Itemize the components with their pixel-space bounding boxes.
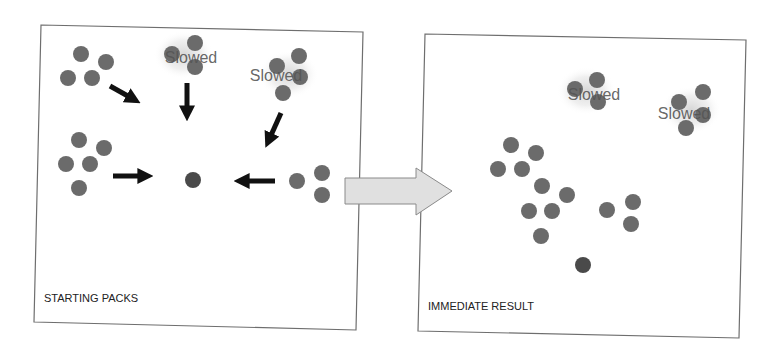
- target-circle: [185, 172, 201, 188]
- unit-circle: [84, 70, 100, 86]
- unit-circle: [60, 70, 76, 86]
- unit-circle: [599, 202, 615, 218]
- unit-circle: [314, 165, 330, 181]
- unit-circle: [623, 216, 639, 232]
- unit-circle: [514, 161, 530, 177]
- diagram-canvas: SlowedSlowedSTARTING PACKSSlowedSlowedIM…: [0, 0, 784, 364]
- unit-circle: [98, 54, 114, 70]
- panel-starting-packs: SlowedSlowedSTARTING PACKS: [34, 25, 363, 330]
- slowed-label: Slowed: [250, 67, 302, 84]
- unit-circle: [73, 46, 89, 62]
- target-circle: [575, 257, 591, 273]
- unit-circle: [534, 178, 550, 194]
- panel-label: STARTING PACKS: [44, 292, 138, 304]
- unit-circle: [625, 194, 641, 210]
- unit-circle: [503, 137, 519, 153]
- unit-circle: [71, 132, 87, 148]
- unit-circle: [521, 203, 537, 219]
- unit-circle: [71, 180, 87, 196]
- unit-circle: [82, 156, 98, 172]
- panel-immediate-result: SlowedSlowedIMMEDIATE RESULT: [418, 34, 746, 338]
- unit-circle: [678, 120, 694, 136]
- unit-circle: [291, 48, 307, 64]
- pack-movement-diagram: SlowedSlowedSTARTING PACKSSlowedSlowedIM…: [0, 0, 784, 364]
- unit-circle: [314, 187, 330, 203]
- unit-circle: [533, 228, 549, 244]
- unit-circle: [275, 85, 291, 101]
- slowed-label: Slowed: [658, 105, 710, 122]
- unit-circle: [559, 187, 575, 203]
- unit-circle: [96, 140, 112, 156]
- unit-circle: [490, 161, 506, 177]
- slowed-label: Slowed: [568, 86, 620, 103]
- unit-circle: [289, 173, 305, 189]
- unit-circle: [695, 84, 711, 100]
- unit-circle: [58, 156, 74, 172]
- slowed-label: Slowed: [165, 49, 217, 66]
- unit-circle: [544, 203, 560, 219]
- unit-circle: [528, 145, 544, 161]
- panel-label: IMMEDIATE RESULT: [428, 300, 534, 312]
